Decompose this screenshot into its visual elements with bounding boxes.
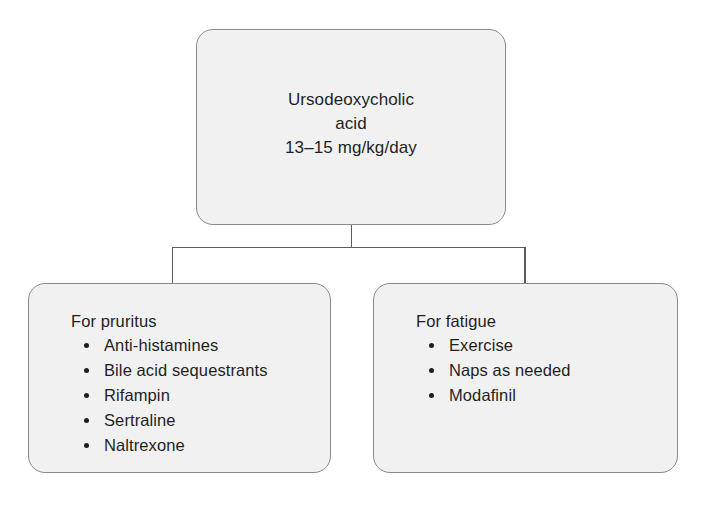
list-item: Sertraline [71, 408, 330, 433]
list-item: Rifampin [71, 383, 330, 408]
list-item-label: Bile acid sequestrants [104, 361, 268, 379]
list-item: Anti-histamines [71, 333, 330, 358]
branch-heading-fatigue: For fatigue [416, 310, 677, 332]
list-item-label: Rifampin [104, 386, 170, 404]
treatment-algorithm-diagram: Ursodeoxycholic acid 13–15 mg/kg/day For… [0, 0, 703, 510]
list-item-label: Anti-histamines [104, 336, 218, 354]
bullet-icon [429, 368, 434, 373]
list-item: Modafinil [416, 383, 677, 408]
bullet-icon [429, 393, 434, 398]
list-item-label: Naltrexone [104, 436, 185, 454]
list-item: Naltrexone [71, 433, 330, 458]
list-item-label: Modafinil [449, 386, 516, 404]
node-branch-fatigue: For fatigue Exercise Naps as needed Moda… [373, 283, 678, 473]
branch-list-fatigue: Exercise Naps as needed Modafinil [416, 333, 677, 408]
bullet-icon [84, 343, 89, 348]
bullet-icon [429, 343, 434, 348]
branch-list-pruritus: Anti-histamines Bile acid sequestrants R… [71, 333, 330, 458]
bullet-icon [84, 393, 89, 398]
list-item: Naps as needed [416, 358, 677, 383]
bullet-icon [84, 368, 89, 373]
node-root-therapy: Ursodeoxycholic acid 13–15 mg/kg/day [196, 29, 506, 225]
branch-heading-pruritus: For pruritus [71, 310, 330, 332]
bullet-icon [84, 443, 89, 448]
list-item-label: Naps as needed [449, 361, 571, 379]
list-item-label: Exercise [449, 336, 513, 354]
root-node-text: Ursodeoxycholic acid 13–15 mg/kg/day [285, 88, 417, 160]
node-branch-pruritus: For pruritus Anti-histamines Bile acid s… [28, 283, 331, 473]
list-item: Exercise [416, 333, 677, 358]
list-item: Bile acid sequestrants [71, 358, 330, 383]
list-item-label: Sertraline [104, 411, 176, 429]
bullet-icon [84, 418, 89, 423]
